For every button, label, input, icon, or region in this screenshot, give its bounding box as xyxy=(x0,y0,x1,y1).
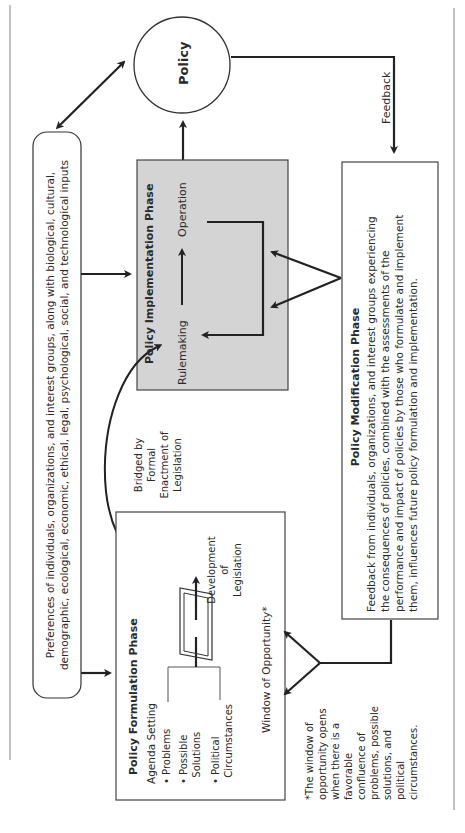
modification-line-4: them, influences future policy formulati… xyxy=(406,162,420,612)
formulation-phase-title: Policy Formulation Phase xyxy=(127,618,140,775)
inputs-line-2: demographic, ecological, economic, ethic… xyxy=(57,140,71,690)
implementation-phase-title: Policy Implementation Phase xyxy=(143,184,156,364)
window-of-opportunity-label: Window of Opportunity* xyxy=(260,607,272,733)
window-footnote: *The window of opportunity opens when th… xyxy=(303,690,420,800)
agenda-item-possible-solutions: • Possible Solutions xyxy=(177,732,203,784)
modification-phase-title: Policy Modification Phase xyxy=(348,162,364,612)
agenda-setting-label: Agenda Setting xyxy=(145,703,157,784)
modification-box: Policy Modification Phase Feedback from … xyxy=(348,162,420,612)
implementation-step-operation: Operation xyxy=(176,182,189,237)
implementation-box-shape xyxy=(137,160,288,390)
policy-node-label: Policy xyxy=(176,41,191,85)
feedback-arrow xyxy=(231,57,394,152)
modification-line-3: performance and impact of policies by th… xyxy=(392,162,406,612)
inputs-line-1: Preferences of individuals, organization… xyxy=(43,140,57,690)
modification-line-1: Feedback from individuals, organizations… xyxy=(364,162,378,612)
feedback-label: Feedback xyxy=(380,72,393,124)
bridge-label: Bridged by Formal Enactment of Legislati… xyxy=(132,425,184,505)
agenda-item-political-circumstances: • Political Circumstances xyxy=(209,704,235,784)
modification-line-2: the consequences of policies, combined w… xyxy=(378,162,392,612)
inputs-box: Preferences of individuals, organization… xyxy=(43,140,71,690)
agenda-item-problems: • Problems xyxy=(160,729,173,784)
development-of-legislation-label: Development of Legislation xyxy=(205,535,244,605)
inputs-policy-arrow xyxy=(60,62,124,125)
implementation-step-rulemaking: Rulemaking xyxy=(176,320,189,385)
